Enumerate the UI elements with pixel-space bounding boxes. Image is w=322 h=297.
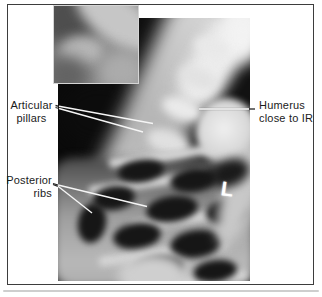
label-humerus-line1: Humerus <box>259 99 321 112</box>
inset-magnified-image <box>53 5 139 84</box>
label-humerus-line2: close to IR <box>259 112 321 125</box>
label-posterior-ribs-line2: ribs <box>0 187 52 200</box>
label-articular-pillars-line1: Articular <box>8 99 55 112</box>
label-posterior-ribs: Posterior ribs <box>0 174 52 199</box>
label-articular-pillars-line2: pillars <box>8 112 55 125</box>
xray-humerus-head <box>196 98 250 166</box>
inset-highlight <box>99 51 139 84</box>
label-posterior-ribs-line1: Posterior <box>0 174 52 187</box>
page-edge-artifact <box>3 290 319 292</box>
figure-page: L Articular pillars Posterior ribs Humer… <box>0 0 322 297</box>
label-articular-pillars: Articular pillars <box>8 99 55 124</box>
label-humerus-close-to-ir: Humerus close to IR <box>259 99 321 124</box>
